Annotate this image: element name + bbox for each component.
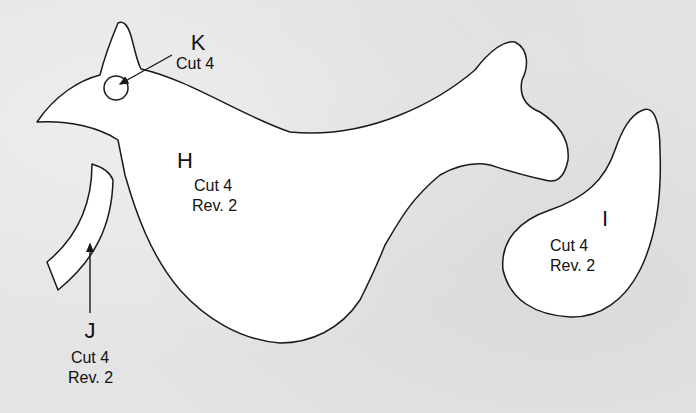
label-h-letter: H (177, 150, 237, 172)
label-h: H Cut 4 Rev. 2 (177, 150, 237, 216)
label-i-cut: Cut 4 (550, 236, 595, 256)
label-k: K Cut 4 (182, 32, 214, 74)
label-j-letter: J (68, 320, 112, 342)
label-j-rev: Rev. 2 (68, 368, 112, 388)
label-k-cut: Cut 4 (176, 54, 214, 74)
label-k-letter: K (182, 32, 214, 54)
piece-j-strip-outline (47, 164, 113, 290)
label-h-cut: Cut 4 (194, 176, 237, 196)
label-h-rev: Rev. 2 (192, 196, 237, 216)
label-j: J Cut 4 Rev. 2 (68, 320, 112, 388)
label-j-cut: Cut 4 (68, 348, 112, 368)
label-i-letter: I (602, 208, 608, 230)
piece-k-eye-circle (104, 76, 128, 100)
label-i-rev: Rev. 2 (550, 256, 595, 276)
label-i: Cut 4 Rev. 2 (550, 236, 595, 276)
piece-h-body-outline (37, 22, 568, 343)
